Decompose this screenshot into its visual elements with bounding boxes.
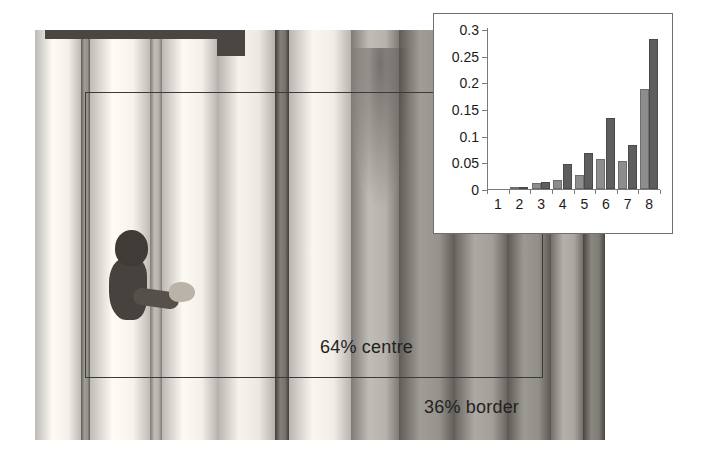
x-tick-label-4: 4 bbox=[559, 196, 567, 212]
y-tick-label-5: 0.25 bbox=[452, 49, 479, 65]
y-tick-6 bbox=[482, 30, 487, 31]
bar-series-1-cat-5 bbox=[575, 175, 584, 189]
x-tick-5 bbox=[574, 190, 575, 194]
x-tick-label-5: 5 bbox=[580, 196, 588, 212]
x-tick-6 bbox=[595, 190, 596, 194]
y-tick-4 bbox=[482, 83, 487, 84]
y-axis-line bbox=[487, 28, 488, 190]
bar-series-1-cat-2 bbox=[510, 187, 519, 189]
y-tick-label-4: 0.2 bbox=[460, 75, 479, 91]
bar-series-1-cat-4 bbox=[553, 180, 562, 189]
y-tick-1 bbox=[482, 163, 487, 164]
x-tick-8 bbox=[638, 190, 639, 194]
x-tick-7 bbox=[617, 190, 618, 194]
y-tick-label-6: 0.3 bbox=[460, 22, 479, 38]
y-tick-3 bbox=[482, 110, 487, 111]
x-tick-label-1: 1 bbox=[494, 196, 502, 212]
x-tick-3 bbox=[530, 190, 531, 194]
y-tick-2 bbox=[482, 137, 487, 138]
bar-series-1-cat-8 bbox=[640, 89, 649, 189]
architrave-beam-right bbox=[217, 30, 245, 56]
x-tick-label-3: 3 bbox=[537, 196, 545, 212]
figure-panel: 64% centre 36% border 00.050.10.150.20.2… bbox=[0, 0, 701, 463]
bar-series-1-cat-6 bbox=[596, 159, 605, 189]
y-tick-label-2: 0.1 bbox=[460, 129, 479, 145]
y-tick-label-1: 0.05 bbox=[452, 155, 479, 171]
x-tick-2 bbox=[509, 190, 510, 194]
x-tick-label-8: 8 bbox=[645, 196, 653, 212]
x-tick-end bbox=[660, 190, 661, 194]
bar-series-2-cat-5 bbox=[584, 153, 593, 189]
chart-plot-area: 00.050.10.150.20.250.3 12345678 bbox=[487, 28, 660, 190]
border-percentage-label: 36% border bbox=[424, 397, 519, 418]
y-tick-label-0: 0 bbox=[471, 182, 479, 198]
bar-series-2-cat-6 bbox=[606, 118, 615, 189]
bar-series-1-cat-3 bbox=[532, 183, 541, 189]
centre-percentage-label: 64% centre bbox=[320, 337, 413, 358]
x-tick-4 bbox=[552, 190, 553, 194]
architrave-beam-left bbox=[45, 30, 217, 39]
bar-series-2-cat-8 bbox=[649, 39, 658, 189]
bar-series-2-cat-4 bbox=[563, 164, 572, 189]
column-1 bbox=[35, 30, 81, 440]
x-tick-label-6: 6 bbox=[602, 196, 610, 212]
inset-bar-chart: 00.050.10.150.20.250.3 12345678 bbox=[433, 13, 673, 234]
bar-series-1-cat-7 bbox=[618, 161, 627, 189]
bar-series-2-cat-7 bbox=[628, 145, 637, 189]
y-tick-5 bbox=[482, 57, 487, 58]
x-tick-label-7: 7 bbox=[624, 196, 632, 212]
x-tick-label-2: 2 bbox=[516, 196, 524, 212]
bar-series-2-cat-2 bbox=[519, 187, 528, 189]
x-tick-1 bbox=[487, 190, 488, 194]
y-tick-label-3: 0.15 bbox=[452, 102, 479, 118]
bar-series-2-cat-3 bbox=[541, 182, 550, 189]
